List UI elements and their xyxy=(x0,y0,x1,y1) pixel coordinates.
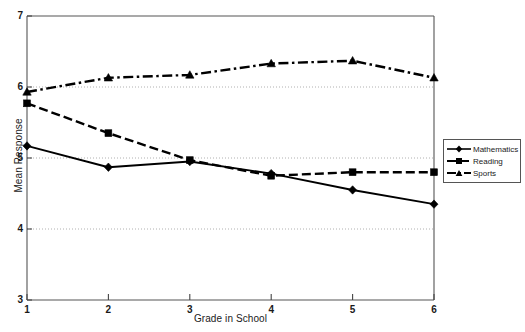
x-axis-title: Grade in School xyxy=(27,313,434,324)
ytick-label-7: 7 xyxy=(5,11,23,21)
ytick-label-4: 4 xyxy=(5,224,23,234)
data-point-reading-1 xyxy=(24,100,31,107)
legend-label-sports: Sports xyxy=(472,169,496,178)
y-axis-title: Mean Response xyxy=(13,101,24,211)
data-point-reading-3 xyxy=(186,157,193,164)
ytick-label-6: 6 xyxy=(5,82,23,92)
legend-label-reading: Reading xyxy=(472,157,503,166)
chart-figure: 3 4 5 6 7 1 2 3 4 5 6 Mean Response Grad… xyxy=(0,0,525,332)
chart-legend: Mathematics Reading Sports xyxy=(443,139,521,183)
data-point-reading-4 xyxy=(268,172,275,179)
ytick-label-3: 3 xyxy=(5,295,23,305)
legend-item-reading[interactable]: Reading xyxy=(446,155,517,167)
data-point-reading-2 xyxy=(105,130,112,137)
legend-sample-reading-icon xyxy=(446,155,472,167)
data-point-reading-5 xyxy=(349,169,356,176)
data-point-reading-6 xyxy=(431,169,438,176)
legend-sample-sports-icon xyxy=(446,167,472,179)
legend-item-sports[interactable]: Sports xyxy=(446,167,517,179)
legend-label-mathematics: Mathematics xyxy=(472,145,518,154)
legend-item-mathematics[interactable]: Mathematics xyxy=(446,143,517,155)
legend-sample-mathematics-icon xyxy=(446,143,472,155)
